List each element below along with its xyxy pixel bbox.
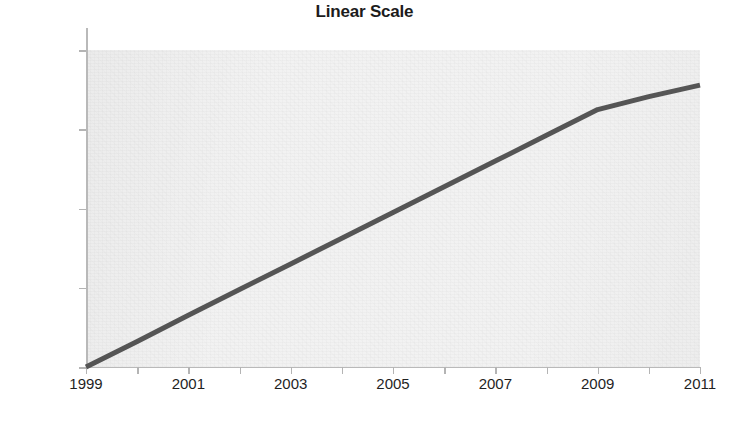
x-tick-label: 2007 (479, 375, 512, 392)
chart-figure: Linear Scale 100001000100101 19992001200… (0, 0, 729, 426)
x-tick (393, 367, 394, 374)
y-tick (79, 367, 86, 369)
series-line (86, 85, 700, 367)
chart-title: Linear Scale (0, 2, 729, 22)
x-tick (598, 367, 599, 374)
x-tick (444, 367, 445, 374)
x-tick (240, 367, 241, 374)
x-tick-label: 2003 (274, 375, 307, 392)
y-tick (79, 129, 86, 131)
x-tick (291, 367, 292, 374)
x-tick (188, 367, 189, 374)
x-tick (649, 367, 650, 374)
x-tick-label: 2009 (581, 375, 614, 392)
x-tick-label: 2005 (376, 375, 409, 392)
x-tick (342, 367, 343, 374)
x-tick-label: 2011 (684, 375, 716, 392)
x-tick (495, 367, 496, 374)
x-tick-label: 1999 (69, 375, 102, 392)
x-tick-label: 2001 (172, 375, 205, 392)
y-tick (79, 288, 86, 290)
y-tick (79, 209, 86, 211)
x-tick (137, 367, 138, 374)
plot-area: 100001000100101 199920012003200520072009… (86, 50, 700, 367)
y-tick (79, 50, 86, 52)
x-tick (700, 367, 701, 374)
series-layer (86, 50, 700, 367)
x-tick (547, 367, 548, 374)
